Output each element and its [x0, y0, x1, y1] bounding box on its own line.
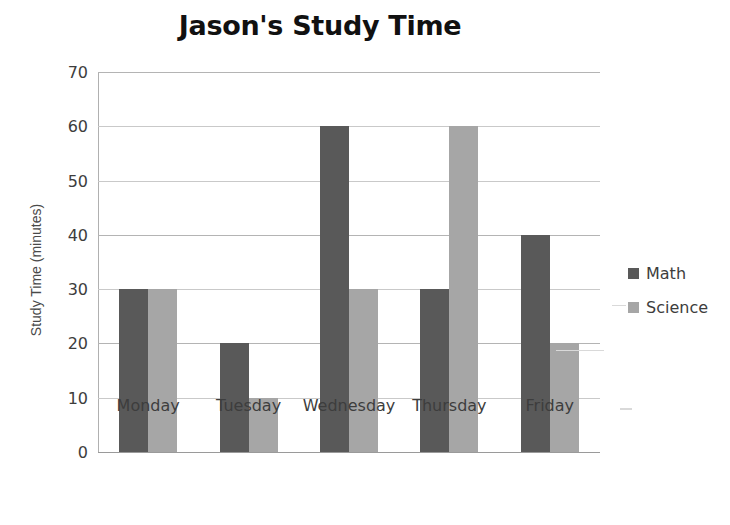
legend-item-math[interactable]: Math — [628, 256, 728, 290]
bar-math-monday — [119, 289, 148, 452]
bar-math-friday — [521, 235, 550, 452]
scan-artifact — [612, 305, 626, 306]
bar-group — [399, 72, 499, 452]
y-axis-tick-label: 50 — [48, 171, 88, 190]
y-axis-tick-label: 40 — [48, 225, 88, 244]
legend-item-science[interactable]: Science — [628, 290, 728, 324]
bar-math-thursday — [420, 289, 449, 452]
bar-group — [98, 72, 198, 452]
y-axis-tick-label: 20 — [48, 334, 88, 353]
scan-artifact — [620, 408, 632, 410]
y-axis-tick-label: 70 — [48, 63, 88, 82]
chart-title: Jason's Study Time — [0, 10, 640, 41]
legend-swatch-icon — [628, 302, 639, 313]
x-axis-line — [98, 452, 600, 453]
bar-science-wednesday — [349, 289, 378, 452]
bar-science-monday — [148, 289, 177, 452]
y-axis-title: Study Time (minutes) — [28, 170, 44, 370]
y-axis-tick-label: 0 — [48, 443, 88, 462]
legend-label: Math — [646, 264, 686, 283]
bar-group — [500, 72, 600, 452]
bar-chart: Jason's Study Time Study Time (minutes) … — [0, 0, 730, 525]
bar-group — [198, 72, 298, 452]
legend-label: Science — [646, 298, 708, 317]
bar-group — [299, 72, 399, 452]
x-axis-tick-label: Friday — [485, 396, 615, 415]
y-axis-tick-label: 10 — [48, 388, 88, 407]
y-axis-tick-label: 30 — [48, 280, 88, 299]
y-axis-tick-label: 60 — [48, 117, 88, 136]
legend-swatch-icon — [628, 268, 639, 279]
chart-legend: MathScience — [628, 256, 728, 324]
